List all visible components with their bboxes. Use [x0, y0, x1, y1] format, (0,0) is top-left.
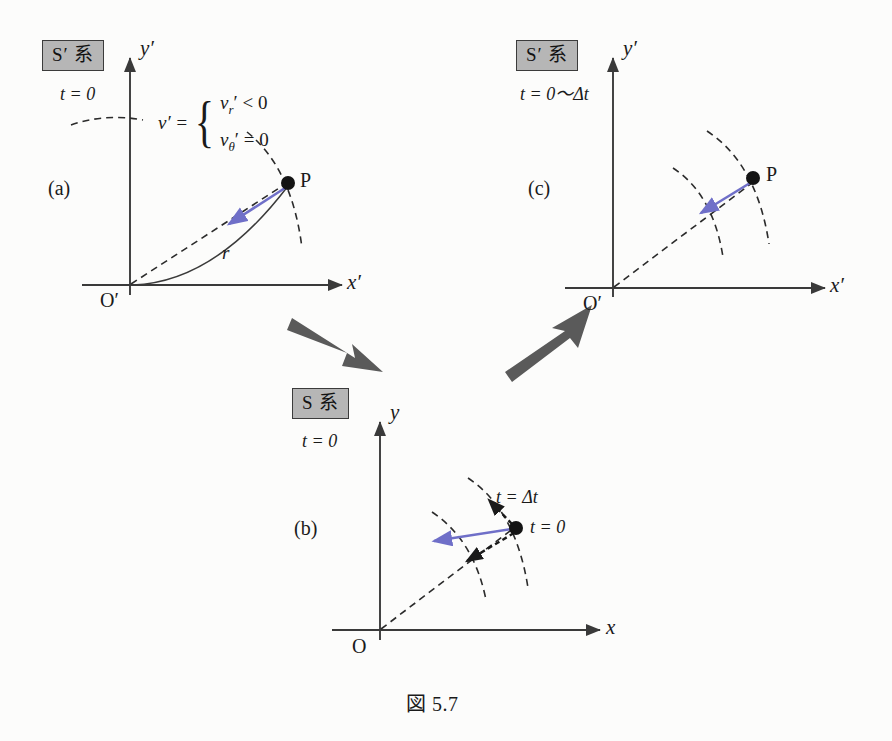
panel-b-displacement-arrow-lower — [467, 533, 514, 561]
panel-c-point-label: P — [766, 164, 777, 184]
panel-a-origin-label: O′ — [100, 290, 119, 310]
panel-b-y-axis-label: y — [390, 402, 399, 423]
formula-row-tangential: vθ′ = 0 — [220, 129, 269, 155]
panel-a-frame-badge: S′ 系 — [42, 40, 104, 71]
panel-c-radial-dashed-line — [614, 180, 756, 287]
transition-arrow-b-to-c — [505, 305, 592, 382]
panel-a-letter: (a) — [48, 178, 70, 198]
panel-c-letter: (c) — [528, 178, 550, 198]
panel-b-point-t0 — [509, 521, 523, 535]
figure-canvas — [0, 0, 892, 741]
figure-caption: 図 5.7 — [406, 688, 459, 717]
panel-c-origin-label: O′ — [583, 293, 602, 313]
transition-arrow-a-to-b — [287, 318, 383, 372]
panel-c-inner-orbit-arc — [673, 168, 723, 257]
figure-root: S′ 系 t = 0 (a) x′ y′ O′ P r v′ = { vr′ <… — [0, 0, 892, 741]
formula-lhs: v′ = — [158, 112, 188, 134]
panel-b-letter: (b) — [294, 518, 317, 538]
panel-b-frame-badge: S 系 — [292, 388, 349, 419]
panel-b-radial-dashed-line — [381, 528, 514, 629]
panel-c-point-p — [746, 171, 760, 185]
panel-a-time-label: t = 0 — [60, 85, 95, 103]
panel-a-x-axis-label: x′ — [347, 272, 361, 293]
formula-brace: { — [195, 101, 214, 145]
panel-b-x-axis-label: x — [606, 617, 615, 638]
panel-a-radius-label: r — [222, 243, 229, 262]
panel-c-velocity-vector — [701, 183, 750, 213]
panel-a-left-arc-fragment — [71, 117, 143, 125]
panel-b-point-time-label: t = 0 — [530, 518, 565, 536]
panel-a-radial-dashed-line — [131, 181, 290, 284]
panel-a-velocity-formula: v′ = { vr′ < 0 vθ′ = 0 — [158, 92, 269, 155]
panel-c-time-label: t = 0～Δt — [520, 85, 589, 103]
panel-b-time-label: t = 0 — [302, 432, 337, 450]
panel-b-origin-label: O — [352, 636, 366, 656]
panel-c-graphics — [565, 58, 825, 297]
panel-b-arc-time-label: t = Δt — [496, 488, 538, 506]
panel-a-velocity-vector — [229, 188, 285, 224]
panel-a-point-label: P — [300, 170, 311, 190]
panel-c-frame-badge: S′ 系 — [516, 40, 578, 71]
panel-c-y-axis-label: y′ — [623, 38, 637, 59]
panel-a-point-p — [281, 176, 295, 190]
formula-rows: vr′ < 0 vθ′ = 0 — [220, 92, 269, 155]
formula-row-radial: vr′ < 0 — [220, 92, 269, 118]
panel-c-x-axis-label: x′ — [830, 275, 844, 296]
panel-a-y-axis-label: y′ — [140, 38, 154, 59]
